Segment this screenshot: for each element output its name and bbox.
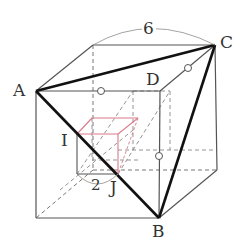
diagram-canvas: 6 A C D I J 2 B [0,0,247,245]
label-B: B [152,221,165,241]
label-D: D [146,69,160,89]
label-I: I [61,130,68,150]
equal-length-marks [98,65,192,160]
label-side-6: 6 [143,18,154,38]
equal-mark-icon [185,65,192,72]
equal-mark-icon [156,153,163,160]
label-side-2: 2 [91,176,101,194]
equal-mark-icon [98,88,105,95]
label-C: C [220,32,233,52]
label-A: A [12,80,26,100]
label-J: J [108,177,117,197]
cube-diagram: 6 A C D I J 2 B [0,0,247,245]
